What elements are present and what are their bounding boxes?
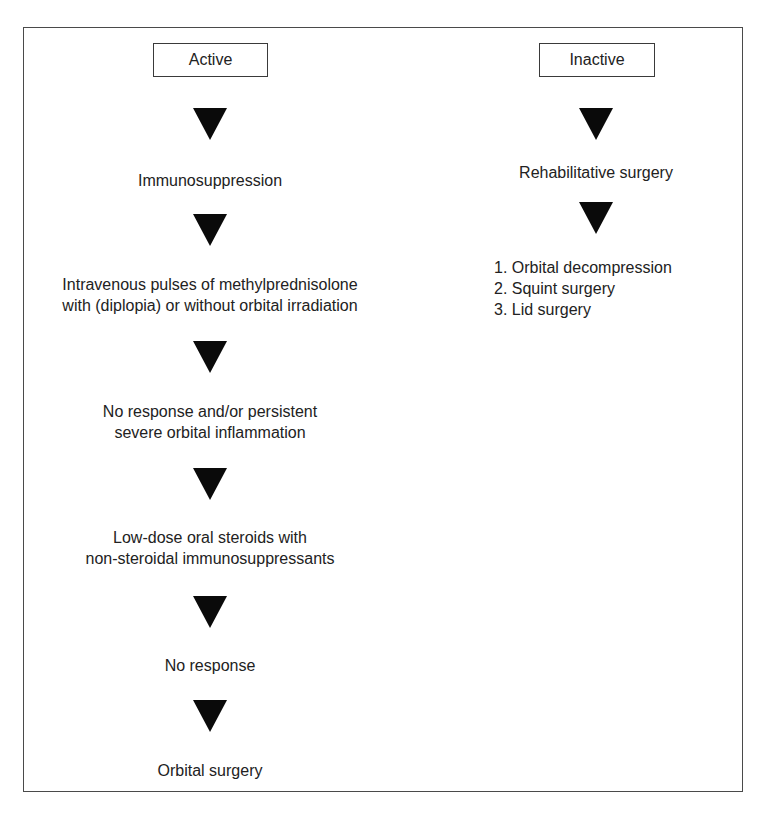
down-arrow-icon [193,108,227,140]
step-no-response-persistent: No response and/or persistent severe orb… [103,401,317,443]
step-orbital-surgery: Orbital surgery [158,760,263,781]
list-item: 3. Lid surgery [494,299,672,320]
down-arrow-icon [193,214,227,246]
active-header-box: Active [153,43,268,77]
step-text: No response and/or persistent [103,401,317,422]
down-arrow-icon [579,108,613,140]
surgery-list: 1. Orbital decompression 2. Squint surge… [494,257,672,320]
step-text: Low-dose oral steroids with [85,527,334,548]
active-header-label: Active [189,51,233,69]
step-text: non-steroidal immunosuppressants [85,548,334,569]
down-arrow-icon [193,468,227,500]
list-item: 2. Squint surgery [494,278,672,299]
inactive-header-label: Inactive [569,51,624,69]
step-text: with (diplopia) or without orbital irrad… [62,295,357,316]
step-text: Rehabilitative surgery [519,162,673,183]
step-text: Immunosuppression [138,170,282,191]
step-iv-methylprednisolone: Intravenous pulses of methylprednisolone… [62,274,357,316]
down-arrow-icon [579,202,613,234]
step-text: Intravenous pulses of methylprednisolone [62,274,357,295]
step-low-dose-oral-steroids: Low-dose oral steroids with non-steroida… [85,527,334,569]
list-item: 1. Orbital decompression [494,257,672,278]
step-immunosuppression: Immunosuppression [138,170,282,191]
step-no-response: No response [165,655,256,676]
step-text: No response [165,655,256,676]
step-text: severe orbital inflammation [103,422,317,443]
step-text: Orbital surgery [158,760,263,781]
down-arrow-icon [193,700,227,732]
step-rehabilitative-surgery: Rehabilitative surgery [519,162,673,183]
inactive-header-box: Inactive [539,43,655,77]
down-arrow-icon [193,341,227,373]
down-arrow-icon [193,596,227,628]
